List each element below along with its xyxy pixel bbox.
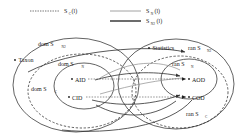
label-dom-sn-sub: N	[82, 65, 85, 69]
dot-cid	[68, 96, 70, 98]
legend-item-sn: S N (l)	[110, 8, 160, 16]
legend-arg-sn: (l)	[154, 8, 160, 15]
node-label-aod: AOD	[192, 77, 206, 83]
label-ran-sn2-sub: N2	[207, 49, 211, 53]
legend-label-sn: S	[146, 8, 149, 14]
diagram-svg: S C (l) S N (l) S N2 (l)	[0, 0, 244, 137]
dot-cod	[188, 96, 190, 98]
dot-taxon	[14, 59, 16, 61]
label-dom-sn2: dom S	[38, 41, 54, 47]
legend-label-sc: S	[64, 8, 67, 14]
legend-label-sn2: S	[146, 18, 149, 24]
arc-sn-lower	[100, 78, 182, 94]
node-label-cod: COD	[192, 95, 205, 101]
node-labels: Taxon AID CID Statistics AOD COD	[19, 45, 206, 101]
node-label-statistics: Statistics	[153, 45, 175, 51]
label-ran-sc-sub: C	[205, 115, 208, 119]
dot-aod	[188, 78, 190, 80]
dot-aid	[71, 78, 73, 80]
legend-sub-sn2: N2	[151, 22, 155, 26]
label-dom-sn2-sub: N2	[62, 45, 66, 49]
node-label-cid: CID	[72, 95, 83, 101]
legend-sub-sn: N	[151, 12, 154, 16]
relation-arcs	[28, 49, 192, 132]
label-ran-sn-sub: N	[191, 65, 194, 69]
label-ran-sc: ran S	[186, 111, 199, 117]
label-ran-sn: ran S	[172, 61, 185, 67]
legend: S C (l) S N (l) S N2 (l)	[30, 8, 162, 26]
region-dom-sn2	[13, 38, 139, 132]
figure-canvas: S C (l) S N (l) S N2 (l)	[0, 0, 244, 137]
label-dom-sn: dom S	[58, 61, 74, 67]
legend-item-sc: S C (l)	[30, 8, 77, 16]
node-label-taxon: Taxon	[19, 57, 34, 63]
label-dom-sc: dom S	[31, 86, 47, 92]
label-dom-sc-sub: C	[55, 90, 58, 94]
legend-arg-sc: (l)	[72, 8, 78, 15]
dot-statistics	[148, 47, 150, 49]
region-dom-sn	[54, 63, 114, 109]
node-label-aid: AID	[75, 77, 86, 83]
label-ran-sn2: ran S	[188, 45, 201, 51]
legend-item-sn2: S N2 (l)	[110, 18, 162, 26]
legend-arg-sn2: (l)	[157, 18, 163, 25]
